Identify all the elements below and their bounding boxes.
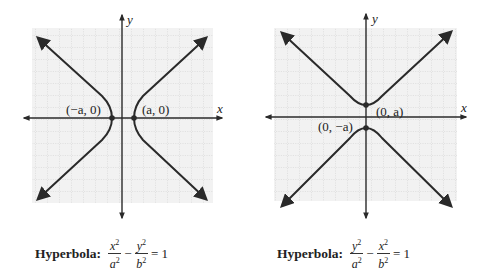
- minus-sign: −: [366, 246, 373, 262]
- vertex-point: [363, 125, 369, 131]
- exponent: 2: [384, 256, 388, 265]
- y-axis-label: y: [125, 12, 133, 27]
- exponent: 2: [115, 238, 119, 247]
- x-axis-label: x: [216, 101, 223, 116]
- fraction: y2 b2: [135, 236, 148, 271]
- vertex-point: [109, 115, 115, 121]
- caption-label: Hyperbola:: [277, 246, 343, 262]
- y-axis-label: y: [370, 11, 378, 26]
- exponent: 2: [358, 256, 362, 265]
- exponent: 2: [357, 238, 361, 247]
- right-hyperbola-plot: [266, 14, 466, 218]
- fraction: y2 a2: [350, 236, 363, 271]
- equals-one: = 1: [393, 246, 410, 262]
- left-caption: Hyperbola: x2 a2 − y2 b2 = 1: [35, 236, 171, 271]
- x-axis-label: x: [460, 100, 467, 115]
- equals-one: = 1: [151, 246, 168, 262]
- vertex-label-neg: (0, −a): [318, 119, 353, 134]
- exponent: 2: [142, 256, 146, 265]
- exponent: 2: [384, 238, 388, 247]
- minus-sign: −: [124, 246, 131, 262]
- exponent: 2: [142, 238, 146, 247]
- left-hyperbola-plot: [24, 15, 222, 218]
- right-caption: Hyperbola: y2 a2 − x2 b2 = 1: [277, 236, 413, 271]
- vertex-point: [131, 115, 137, 121]
- fraction: x2 b2: [377, 236, 390, 271]
- vertex-label-pos: (0, a): [376, 104, 403, 119]
- exponent: 2: [116, 256, 120, 265]
- vertex-label-pos: (a, 0): [142, 102, 169, 117]
- vertex-point: [363, 102, 369, 108]
- vertex-label-neg: (−a, 0): [66, 102, 101, 117]
- fraction: x2 a2: [108, 236, 121, 271]
- caption-label: Hyperbola:: [35, 246, 101, 262]
